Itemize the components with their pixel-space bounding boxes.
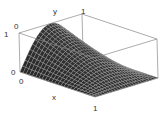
z-tick-1: 1 [81, 7, 86, 16]
box-edge [82, 14, 157, 39]
x-tick-1: 1 [93, 104, 98, 113]
x-axis-label: x [52, 93, 56, 102]
z-tick-top-1: 1 [4, 30, 9, 39]
box-edge [94, 39, 157, 58]
box-edge [157, 39, 158, 78]
surface-mesh [20, 23, 158, 97]
y-tick-0: 0 [14, 22, 19, 31]
surface-plot: y 1 0 1 0 0 x 1 [0, 0, 165, 114]
box-edge [19, 33, 20, 72]
x-tick-0: 0 [19, 77, 24, 86]
y-axis-label: y [53, 7, 57, 16]
z-tick-0: 0 [11, 68, 16, 77]
